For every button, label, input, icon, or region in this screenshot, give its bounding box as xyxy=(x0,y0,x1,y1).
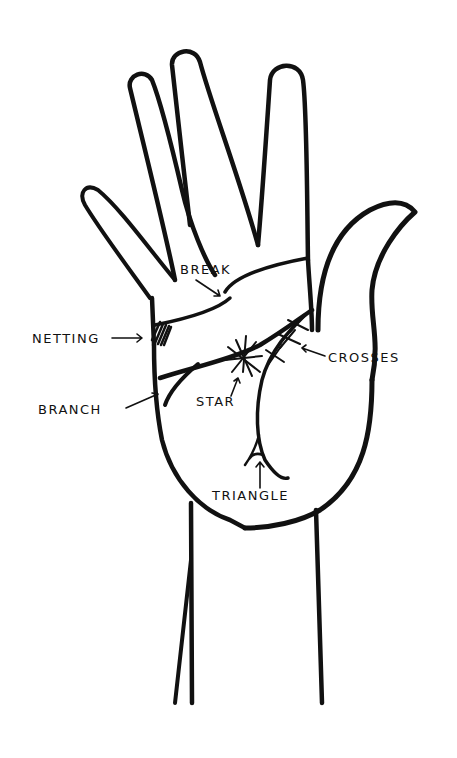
heart-line-right xyxy=(225,258,308,292)
label-triangle: TRIANGLE xyxy=(211,488,289,503)
palm-right-edge xyxy=(308,260,312,330)
middle-finger-outline xyxy=(172,51,258,245)
arrow-crosses xyxy=(302,345,325,356)
little-finger-outline xyxy=(82,188,175,298)
wrist-right xyxy=(316,510,322,703)
life-line xyxy=(257,315,305,478)
label-arrows xyxy=(112,280,325,488)
palm-diagram: BREAK NETTING BRANCH STAR CROSSES TRIANG… xyxy=(0,0,457,758)
label-break: BREAK xyxy=(180,262,231,277)
ring-finger-outline xyxy=(130,74,215,280)
label-branch: BRANCH xyxy=(38,402,102,417)
arrow-break xyxy=(196,280,220,296)
index-finger-outline xyxy=(258,66,308,260)
wrist-left-outer xyxy=(175,560,191,703)
arrow-branch xyxy=(126,393,158,408)
label-netting: NETTING xyxy=(32,331,100,346)
arrow-netting xyxy=(112,334,142,342)
label-star: STAR xyxy=(196,394,235,409)
wrist-left-inner xyxy=(191,503,192,703)
heart-line-left xyxy=(155,298,230,325)
label-crosses: CROSSES xyxy=(328,350,400,365)
arrow-triangle xyxy=(256,462,264,488)
